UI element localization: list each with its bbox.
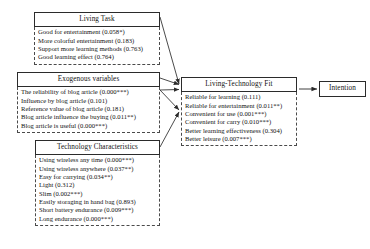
list-item: Convenient for carry (0.010***) bbox=[185, 118, 294, 126]
list-item: Long endurance (0.000***) bbox=[39, 215, 157, 223]
list-item: Using wireless any time (0.000***) bbox=[39, 156, 157, 164]
node-technology-characteristics-items: Using wireless any time (0.000***) Using… bbox=[35, 155, 160, 226]
node-technology-characteristics-title: Technology Characteristics bbox=[35, 140, 160, 155]
list-item: Better learning effectiveness (0.304) bbox=[185, 127, 294, 135]
list-item: Good learning effect (0.764) bbox=[38, 53, 157, 61]
list-item: Easy for carrying (0.034**) bbox=[39, 173, 157, 181]
list-item: Reliable for learning (0.111) bbox=[185, 93, 294, 101]
list-item: Blog article is useful (0.000***) bbox=[21, 122, 157, 130]
node-exogenous-variables-items: The reliability of blog article (0.000**… bbox=[17, 87, 160, 133]
node-technology-characteristics: Technology Characteristics Using wireles… bbox=[35, 140, 160, 226]
list-item: The reliability of blog article (0.000**… bbox=[21, 88, 157, 96]
list-item: Reliable for entertainment (0.011**) bbox=[185, 102, 294, 110]
node-living-technology-fit-items: Reliable for learning (0.111) Reliable f… bbox=[181, 92, 297, 146]
edge-exogenous-to-fit-lower bbox=[160, 90, 179, 110]
list-item: Influence by blog article (0.101) bbox=[21, 97, 157, 105]
edge-living-task-to-fit bbox=[160, 17, 179, 84]
list-item: Support more learning methods (0.763) bbox=[38, 45, 157, 53]
node-exogenous-variables-title: Exogenous variables bbox=[17, 72, 160, 87]
list-item: Reference value of blog article (0.181) bbox=[21, 105, 157, 113]
node-living-technology-fit: Living-Technology Fit Reliable for learn… bbox=[181, 77, 297, 146]
node-intention: Intention bbox=[319, 81, 366, 97]
list-item: Short battery endurance (0.009***) bbox=[39, 206, 157, 214]
node-exogenous-variables: Exogenous variables The reliability of b… bbox=[17, 72, 160, 133]
list-item: Convenient for use (0.001***) bbox=[185, 110, 294, 118]
list-item: Good for entertainment (0.058*) bbox=[38, 28, 157, 36]
node-living-task-title: Living Task bbox=[34, 12, 160, 27]
node-living-task: Living Task Good for entertainment (0.05… bbox=[34, 12, 160, 65]
list-item: Easily storaging in hand bag (0.893) bbox=[39, 198, 157, 206]
list-item: More colorful entertainment (0.183) bbox=[38, 37, 157, 45]
edge-exogenous-to-fit bbox=[160, 90, 179, 91]
node-living-technology-fit-title: Living-Technology Fit bbox=[181, 77, 297, 92]
edge-technology-to-fit bbox=[160, 112, 179, 147]
list-item: Blog article influence the buying (0.011… bbox=[21, 113, 157, 121]
edge-exogenous-to-fit-upper bbox=[160, 78, 179, 85]
list-item: Using wireless anywhere (0.037**) bbox=[39, 165, 157, 173]
node-living-task-items: Good for entertainment (0.058*) More col… bbox=[34, 27, 160, 65]
list-item: Slim (0.002***) bbox=[39, 190, 157, 198]
node-intention-title: Intention bbox=[319, 81, 366, 97]
diagram-canvas: Living Task Good for entertainment (0.05… bbox=[0, 0, 370, 249]
list-item: Better leisure (0.007***) bbox=[185, 135, 294, 143]
list-item: Light (0.312) bbox=[39, 181, 157, 189]
